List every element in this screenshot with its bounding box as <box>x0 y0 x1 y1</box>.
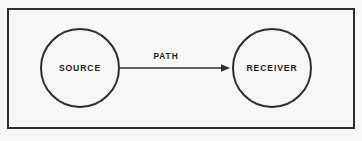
diagram-canvas: SOURCE RECEIVER PATH <box>0 0 362 141</box>
source-node-label: SOURCE <box>59 63 101 73</box>
path-edge-arrowhead <box>221 64 230 72</box>
diagram-svg: SOURCE RECEIVER PATH <box>0 0 362 141</box>
receiver-node-label: RECEIVER <box>246 63 297 73</box>
path-edge-label: PATH <box>153 51 178 61</box>
